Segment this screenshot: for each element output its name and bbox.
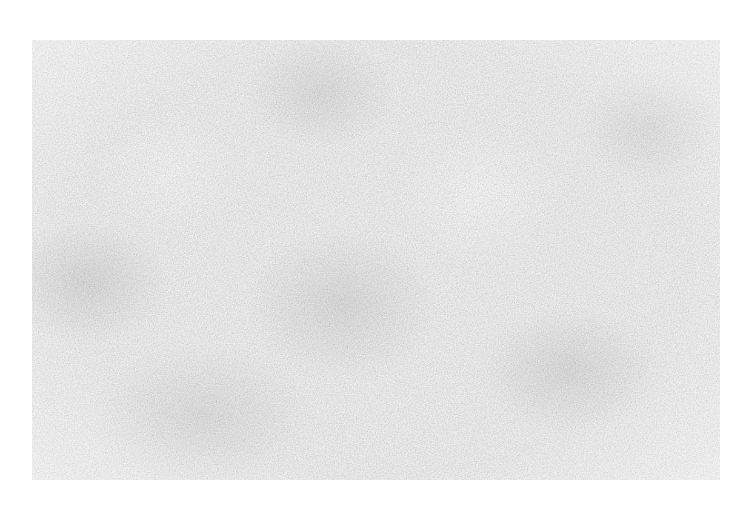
grain-overlay: [32, 40, 720, 480]
blank-canvas: [0, 0, 747, 511]
